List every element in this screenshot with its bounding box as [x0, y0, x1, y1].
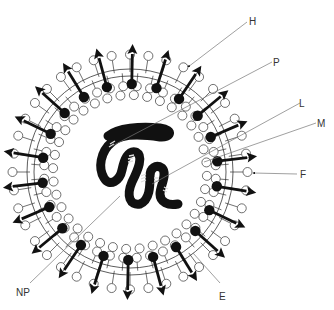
- lipid-tail: [122, 73, 123, 82]
- lipid-tail: [92, 255, 95, 263]
- nucleocapsid-ribbon: [101, 127, 178, 204]
- matrix-protein: [69, 115, 78, 124]
- matrix-protein: [196, 197, 205, 206]
- matrix-protein: [143, 92, 152, 101]
- lipid-tail: [164, 81, 167, 89]
- matrix-protein: [108, 243, 117, 252]
- matrix-protein: [155, 97, 164, 106]
- lipid-head-inner: [199, 123, 208, 132]
- lipid-head-inner: [181, 102, 190, 111]
- label-l: L: [299, 98, 305, 109]
- spike-stem: [68, 71, 84, 97]
- leader-line-m: [204, 123, 316, 162]
- spike-arrowhead: [94, 48, 104, 59]
- matrix-protein: [202, 158, 211, 167]
- spike-stem: [24, 121, 51, 134]
- lipid-head-outer: [179, 63, 188, 72]
- lipid-head-outer: [107, 284, 116, 293]
- label-h: H: [249, 16, 256, 27]
- lipid-head-outer: [221, 98, 230, 107]
- matrix-protein: [49, 164, 58, 173]
- lipid-tail: [39, 231, 50, 239]
- lipid-tail: [50, 243, 59, 252]
- matrix-protein: [190, 209, 199, 218]
- label-m: M: [317, 118, 325, 129]
- lipid-tail: [137, 73, 138, 82]
- matrix-protein-layer: [49, 91, 212, 254]
- lipid-head-outer: [179, 272, 188, 281]
- spike-stem: [176, 247, 192, 273]
- lipid-tail: [31, 164, 40, 165]
- lipid-head-outer: [14, 204, 23, 213]
- matrix-protein: [194, 132, 203, 141]
- label-f: F: [300, 169, 306, 180]
- lipid-tail: [218, 193, 227, 195]
- lipid-tail: [164, 255, 167, 263]
- matrix-protein: [129, 91, 138, 100]
- label-np: NP: [16, 287, 30, 298]
- matrix-protein: [79, 106, 88, 115]
- matrix-protein: [187, 121, 196, 130]
- spike-stem: [156, 59, 165, 88]
- lipid-tail: [146, 271, 148, 284]
- matrix-protein: [52, 190, 61, 199]
- matrix-protein: [90, 99, 99, 108]
- virion-diagram: H P L M F E NP: [0, 0, 334, 310]
- lipid-tail: [220, 179, 229, 180]
- matrix-protein: [57, 203, 66, 212]
- lipid-head-inner: [70, 102, 79, 111]
- lipid-head-outer: [221, 237, 230, 246]
- lipid-tail: [39, 106, 50, 114]
- lipid-head-outer: [107, 51, 116, 60]
- lipid-tail: [151, 76, 153, 85]
- lipid-head-outer: [237, 131, 246, 140]
- lipid-tail: [34, 149, 43, 151]
- leader-line-p: [112, 62, 272, 146]
- lipid-tail: [107, 260, 109, 269]
- lipid-tail: [112, 271, 114, 284]
- lipid-head-outer: [8, 168, 17, 177]
- lipid-tail: [34, 193, 43, 195]
- lipid-head-inner: [158, 247, 167, 256]
- lipid-head-outer: [30, 98, 39, 107]
- lipid-tail: [137, 262, 138, 271]
- matrix-protein: [172, 229, 181, 238]
- label-e: E: [219, 291, 226, 302]
- matrix-protein: [96, 238, 105, 247]
- lipid-head-outer: [30, 237, 39, 246]
- leader-line-f: [253, 173, 297, 174]
- spike-stem: [128, 260, 129, 290]
- matrix-protein: [122, 244, 131, 253]
- lipid-head-outer: [209, 84, 218, 93]
- matrix-protein: [116, 91, 125, 100]
- spike-stem: [94, 256, 103, 285]
- lipid-tail: [189, 253, 197, 264]
- lipid-head-inner: [132, 253, 141, 262]
- lipid-head-outer: [72, 272, 81, 281]
- spike-stem: [132, 54, 133, 84]
- lipid-tail: [211, 106, 222, 114]
- matrix-protein: [148, 241, 157, 250]
- matrix-protein: [50, 150, 59, 159]
- matrix-protein: [73, 224, 82, 233]
- matrix-protein: [84, 232, 93, 241]
- lipid-tail: [92, 81, 95, 89]
- leader-line-h: [188, 22, 247, 67]
- lipid-head-inner: [119, 82, 128, 91]
- matrix-protein: [161, 236, 170, 245]
- matrix-protein: [202, 171, 211, 180]
- spike-stem: [13, 183, 43, 187]
- lipid-head-outer: [14, 131, 23, 140]
- matrix-protein: [182, 220, 191, 229]
- lipid-tail: [211, 231, 222, 239]
- lipid-tail: [64, 81, 72, 92]
- spike-stem: [39, 228, 62, 247]
- glycoprotein-spikes: [3, 44, 257, 300]
- matrix-protein: [199, 145, 208, 154]
- lipid-tail: [112, 60, 114, 73]
- matrix-protein: [178, 111, 187, 120]
- lipid-tail: [18, 188, 31, 190]
- lipid-head-outer: [72, 63, 81, 72]
- matrix-protein: [49, 177, 58, 186]
- lipid-head-inner: [93, 88, 102, 97]
